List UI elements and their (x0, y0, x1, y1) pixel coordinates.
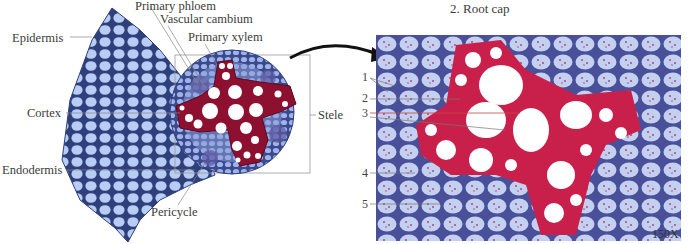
arrow-to-micrograph (290, 46, 380, 58)
callout-4: 4 (362, 167, 368, 180)
callout-1: 1 (362, 71, 368, 84)
callout-3: 3 (362, 107, 368, 120)
label-pericycle: Pericycle (151, 205, 198, 219)
label-epidermis: Epidermis (12, 31, 63, 45)
callout-5: 5 (362, 198, 368, 211)
callout-2: 2 (362, 92, 368, 105)
label-endodermis: Endodermis (2, 163, 62, 177)
label-vascular-cambium: Vascular cambium (160, 12, 253, 26)
label-stele: Stele (318, 108, 343, 122)
micrograph-image (376, 35, 681, 241)
label-primary-xylem: Primary xylem (188, 30, 263, 44)
micrograph-magnification: 150X (652, 227, 679, 242)
label-cortex: Cortex (27, 106, 61, 120)
